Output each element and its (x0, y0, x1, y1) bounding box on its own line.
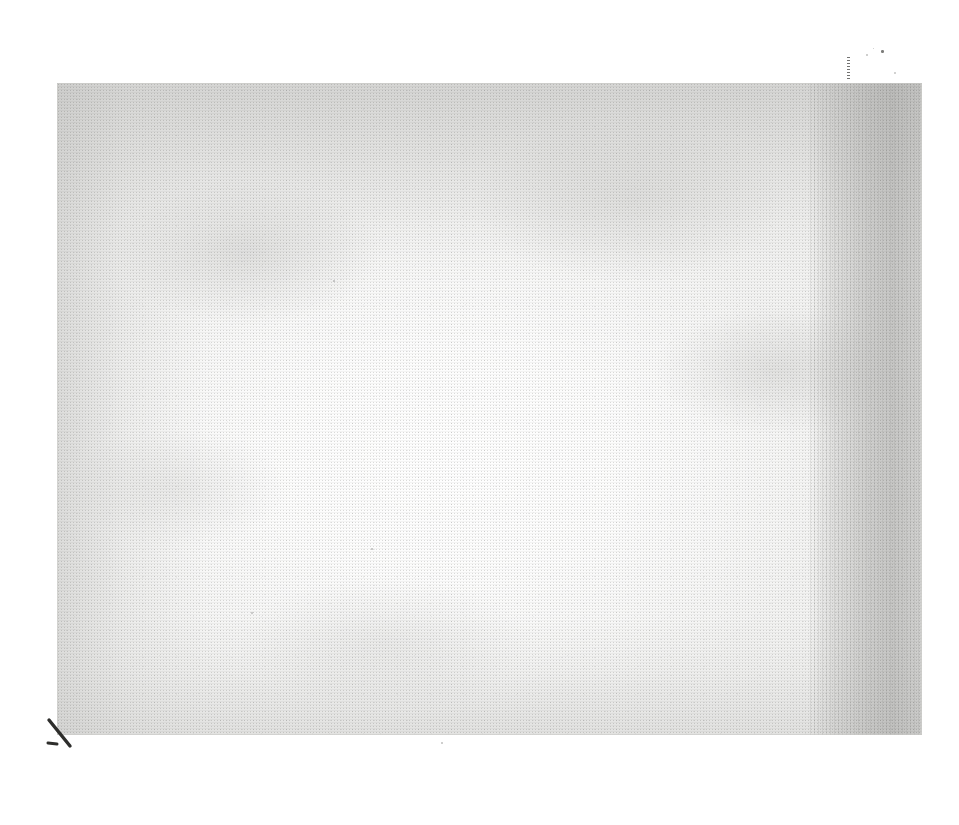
top-edge-tick-mark (847, 57, 850, 79)
page-text-content (57, 83, 922, 735)
scanned-page (57, 83, 922, 735)
dust-speck (873, 48, 874, 49)
dust-speck (866, 54, 868, 56)
dust-speck (881, 50, 884, 53)
dust-speck (894, 72, 896, 74)
dust-speck (441, 742, 443, 744)
dust-speck (251, 612, 253, 614)
dust-speck (333, 280, 335, 282)
dust-speck (371, 548, 373, 550)
scan-canvas (0, 0, 959, 825)
